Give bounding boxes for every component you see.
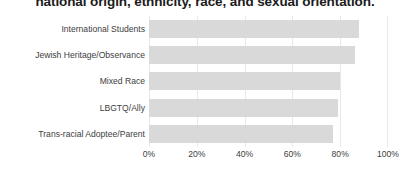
bar-row: [149, 95, 388, 121]
x-axis: 0% 20% 40% 60% 80% 100%: [149, 147, 388, 163]
bar-row: [149, 121, 388, 147]
x-tick-label: 80%: [320, 149, 360, 159]
category-label: International Students: [2, 24, 145, 34]
category-axis-labels: International Students Jewish Heritage/O…: [0, 16, 145, 147]
bar: [149, 99, 338, 117]
bar: [149, 72, 340, 90]
bar-row: [149, 16, 388, 42]
bar-chart: national origin, ethnicity, race, and se…: [0, 0, 410, 175]
x-tick-label: 40%: [225, 149, 265, 159]
x-tick-label: 20%: [177, 149, 217, 159]
category-label: LBGTQ/Ally: [2, 103, 145, 113]
bar: [149, 46, 355, 64]
x-tick-label: 100%: [368, 149, 408, 159]
category-label: Jewish Heritage/Observance: [2, 50, 145, 60]
bar-row: [149, 42, 388, 68]
bar: [149, 125, 333, 143]
chart-title: national origin, ethnicity, race, and se…: [0, 0, 410, 12]
bar: [149, 20, 359, 38]
plot-area: [149, 16, 388, 147]
x-tick-label: 0%: [129, 149, 169, 159]
category-label: Trans-racial Adoptee/Parent: [2, 129, 145, 139]
category-label: Mixed Race: [2, 76, 145, 86]
x-tick-label: 60%: [272, 149, 312, 159]
bar-row: [149, 68, 388, 94]
